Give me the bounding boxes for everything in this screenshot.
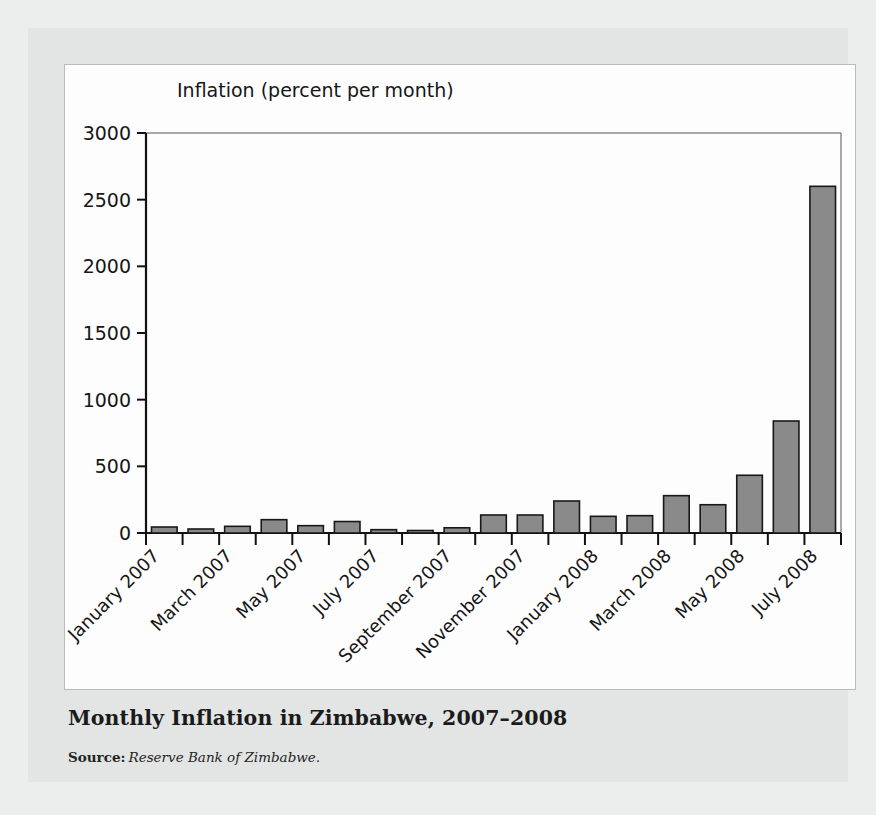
y-tick-label: 1000: [83, 389, 131, 411]
y-tick-label: 0: [119, 522, 131, 544]
chart-title: Monthly Inflation in Zimbabwe, 2007–2008: [68, 706, 838, 730]
bar: [225, 526, 251, 533]
y-tick-label: 2500: [83, 189, 131, 211]
bar: [737, 475, 763, 533]
bar: [298, 526, 324, 533]
plot-frame: [146, 133, 841, 533]
caption-block: Monthly Inflation in Zimbabwe, 2007–2008…: [68, 706, 838, 765]
bar: [151, 527, 177, 533]
y-tick-label: 1500: [83, 322, 131, 344]
y-axis-title: Inflation (percent per month): [177, 79, 454, 101]
bar: [554, 501, 580, 533]
bar: [261, 520, 287, 533]
source-label: Source:: [68, 749, 125, 765]
figure-page: Inflation (percent per month)05001000150…: [0, 0, 876, 815]
bar: [590, 516, 616, 533]
figure-panel: Inflation (percent per month)05001000150…: [28, 28, 848, 782]
bar: [444, 528, 470, 533]
bar: [481, 515, 507, 533]
y-tick-label: 2000: [83, 255, 131, 277]
source-line: Source:Reserve Bank of Zimbabwe.: [68, 749, 838, 765]
bar: [517, 515, 543, 533]
x-tick-label: May 2008: [671, 545, 749, 623]
x-tick-label: July 2007: [308, 545, 383, 620]
y-tick-label: 3000: [83, 122, 131, 144]
y-tick-label: 500: [95, 455, 131, 477]
bar: [627, 516, 653, 533]
bar: [810, 186, 836, 533]
x-tick-label: July 2008: [747, 545, 822, 620]
bar: [371, 530, 397, 533]
bar: [664, 496, 690, 533]
source-text: Reserve Bank of Zimbabwe.: [128, 749, 320, 765]
bar: [188, 529, 214, 533]
bar: [700, 505, 726, 533]
bar: [773, 421, 799, 533]
chart-card: Inflation (percent per month)05001000150…: [64, 64, 856, 690]
x-tick-label: May 2007: [232, 545, 310, 623]
inflation-bar-chart: Inflation (percent per month)05001000150…: [65, 65, 855, 689]
bar: [334, 522, 360, 533]
bar: [408, 531, 434, 534]
x-tick-label: January 2007: [65, 545, 163, 645]
